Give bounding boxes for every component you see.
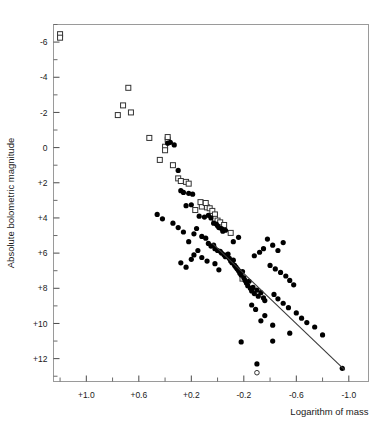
data-point-filled bbox=[304, 320, 309, 325]
data-point-filled bbox=[194, 226, 199, 231]
data-point-filled bbox=[168, 140, 173, 145]
data-point-filled bbox=[252, 253, 257, 258]
data-point-filled bbox=[281, 240, 286, 245]
x-tick-label: -0.2 bbox=[236, 390, 251, 400]
data-point-filled bbox=[270, 243, 275, 248]
data-point-square bbox=[147, 135, 152, 140]
axis-layer bbox=[54, 25, 369, 382]
data-point-filled bbox=[204, 258, 209, 263]
y-tick-label: +8 bbox=[38, 283, 48, 293]
data-point-filled bbox=[246, 279, 251, 284]
data-points-layer bbox=[58, 32, 345, 375]
data-point-filled bbox=[287, 331, 292, 336]
data-point-square bbox=[170, 163, 175, 168]
plot-frame bbox=[54, 25, 369, 382]
y-tick-label: -2 bbox=[40, 108, 48, 118]
data-point-filled bbox=[223, 228, 228, 233]
data-point-filled bbox=[212, 261, 217, 266]
x-tick-label: +0.6 bbox=[130, 390, 147, 400]
data-point-filled bbox=[261, 246, 266, 251]
x-axis-title: Logarithm of mass bbox=[290, 406, 368, 417]
data-point-square bbox=[228, 230, 233, 235]
data-point-filled bbox=[291, 282, 296, 287]
data-point-filled bbox=[190, 192, 195, 197]
data-point-square bbox=[58, 35, 63, 40]
data-point-square bbox=[163, 148, 168, 153]
data-point-filled bbox=[197, 214, 202, 219]
series-filled-circles bbox=[155, 140, 345, 371]
data-point-filled bbox=[258, 318, 263, 323]
data-point-square bbox=[157, 157, 162, 162]
data-point-filled bbox=[170, 221, 175, 226]
data-point-filled bbox=[278, 270, 283, 275]
data-point-square bbox=[203, 201, 208, 206]
axis-label-layer: +1.0+0.6+0.2-0.2-0.6-1.0-6-4-20+2+4+6+8+… bbox=[5, 37, 369, 417]
data-point-filled bbox=[275, 296, 280, 301]
data-point-filled bbox=[183, 265, 188, 270]
data-point-filled bbox=[236, 235, 241, 240]
figure-container: +1.0+0.6+0.2-0.2-0.6-1.0-6-4-20+2+4+6+8+… bbox=[0, 0, 388, 429]
data-point-filled bbox=[320, 332, 325, 337]
x-tick-label: -1.0 bbox=[341, 390, 356, 400]
data-point-filled bbox=[191, 231, 196, 236]
data-point-square bbox=[186, 181, 191, 186]
data-point-filled bbox=[254, 361, 259, 366]
data-point-filled bbox=[216, 267, 221, 272]
x-tick-label: +0.2 bbox=[183, 390, 200, 400]
series-open-squares bbox=[58, 32, 245, 281]
data-point-filled bbox=[249, 302, 254, 307]
y-axis-title: Absolute bolometric magnitude bbox=[5, 138, 16, 268]
data-point-filled bbox=[155, 212, 160, 217]
y-tick-label: +6 bbox=[38, 248, 48, 258]
data-point-filled bbox=[265, 236, 270, 241]
y-tick-label: +2 bbox=[38, 178, 48, 188]
data-point-filled bbox=[257, 250, 262, 255]
data-point-filled bbox=[186, 239, 191, 244]
data-point-filled bbox=[273, 266, 278, 271]
data-point-square bbox=[198, 200, 203, 205]
data-point-filled bbox=[199, 255, 204, 260]
data-point-filled bbox=[231, 239, 236, 244]
data-point-filled bbox=[283, 273, 288, 278]
regression-line bbox=[212, 243, 345, 370]
data-point-filled bbox=[195, 248, 200, 253]
data-point-filled bbox=[262, 313, 267, 318]
data-point-filled bbox=[286, 305, 291, 310]
data-point-filled bbox=[294, 310, 299, 315]
data-point-square bbox=[165, 135, 170, 140]
data-point-filled bbox=[183, 203, 188, 208]
data-point-filled bbox=[178, 188, 183, 193]
data-point-filled bbox=[267, 263, 272, 268]
data-point-filled bbox=[191, 252, 196, 257]
data-point-filled bbox=[299, 316, 304, 321]
x-tick-label: +1.0 bbox=[78, 390, 95, 400]
y-tick-label: 0 bbox=[43, 143, 48, 153]
data-point-filled bbox=[208, 215, 213, 220]
data-point-filled bbox=[176, 225, 181, 230]
data-point-filled bbox=[271, 292, 276, 297]
data-point-square bbox=[126, 85, 131, 90]
y-tick-label: -4 bbox=[40, 72, 48, 82]
data-point-filled bbox=[287, 278, 292, 283]
data-point-open bbox=[255, 370, 260, 375]
data-point-filled bbox=[176, 168, 181, 173]
data-point-filled bbox=[253, 307, 258, 312]
data-point-filled bbox=[181, 229, 186, 234]
data-point-filled bbox=[160, 216, 165, 221]
data-point-filled bbox=[178, 260, 183, 265]
data-point-filled bbox=[262, 298, 267, 303]
data-point-filled bbox=[203, 236, 208, 241]
data-point-filled bbox=[189, 257, 194, 262]
data-point-filled bbox=[312, 324, 317, 329]
data-point-square bbox=[115, 113, 120, 118]
data-point-square bbox=[193, 208, 198, 213]
data-point-filled bbox=[270, 323, 275, 328]
y-tick-label: -6 bbox=[40, 37, 48, 47]
data-point-filled bbox=[189, 202, 194, 207]
y-tick-label: +4 bbox=[38, 213, 48, 223]
data-point-filled bbox=[225, 251, 230, 256]
data-point-filled bbox=[270, 338, 275, 343]
y-tick-label: +10 bbox=[33, 319, 48, 329]
x-tick-label: -0.6 bbox=[289, 390, 304, 400]
data-point-filled bbox=[275, 248, 280, 253]
